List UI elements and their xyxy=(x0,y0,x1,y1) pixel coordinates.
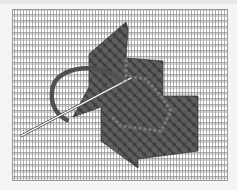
illustration-frame xyxy=(12,9,228,181)
needlepoint-illustration xyxy=(13,10,228,181)
top-edge xyxy=(0,0,237,4)
